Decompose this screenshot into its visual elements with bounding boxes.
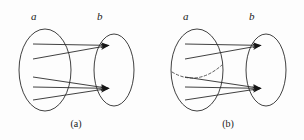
set-label-a: a xyxy=(31,11,37,22)
mapping-line-1 xyxy=(33,44,109,45)
mapping-line-5 xyxy=(185,88,261,100)
figure-root: a b (a) a b (b) xyxy=(0,0,304,140)
mapping-line-3 xyxy=(185,77,261,88)
source-ellipse-a xyxy=(19,29,71,111)
mapping-line-4 xyxy=(33,87,109,88)
panel-caption-a: (a) xyxy=(0,118,152,129)
set-label-a: a xyxy=(183,11,189,22)
mapping-line-3 xyxy=(33,77,109,88)
mapping-line-4 xyxy=(185,87,261,88)
panel-a: a b (a) xyxy=(0,0,152,140)
set-label-b: b xyxy=(97,11,103,22)
dashed-subset-curve xyxy=(172,65,222,78)
panel-caption-b: (b) xyxy=(152,118,304,129)
mapping-line-2 xyxy=(185,45,261,59)
set-label-b: b xyxy=(249,11,255,22)
mapping-line-1 xyxy=(185,44,261,45)
mapping-line-2 xyxy=(33,45,109,59)
panel-b: a b (b) xyxy=(152,0,304,140)
mapping-line-5 xyxy=(33,88,109,100)
